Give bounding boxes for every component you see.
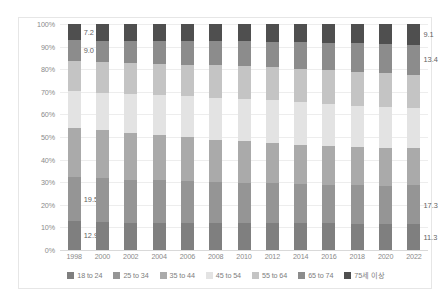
legend-item[interactable]: 35 to 44	[160, 271, 195, 280]
bar-segment[interactable]	[322, 24, 335, 43]
bar-segment[interactable]	[96, 222, 109, 250]
bar-segment[interactable]	[322, 146, 335, 184]
bar-slot[interactable]	[173, 24, 201, 250]
bar-segment[interactable]	[238, 66, 251, 98]
bar-segment[interactable]	[68, 128, 81, 177]
bar-segment[interactable]	[407, 45, 420, 75]
legend-item[interactable]: 25 to 34	[113, 271, 148, 280]
bar-segment[interactable]	[294, 145, 307, 184]
bar-segment[interactable]	[181, 24, 194, 41]
bar-segment[interactable]	[153, 64, 166, 95]
bar-segment[interactable]	[68, 177, 81, 221]
bar-slot[interactable]: 11.317.313.49.1	[400, 24, 428, 250]
bar-segment[interactable]	[181, 96, 194, 137]
bar-segment[interactable]	[124, 180, 137, 223]
bar-segment[interactable]	[266, 143, 279, 183]
bar-segment[interactable]	[407, 75, 420, 108]
bar-segment[interactable]	[351, 224, 364, 250]
bar-segment[interactable]	[209, 98, 222, 140]
bar-segment[interactable]	[96, 62, 109, 93]
bar-segment[interactable]	[294, 42, 307, 68]
bar-segment[interactable]	[124, 63, 137, 94]
bar-segment[interactable]	[209, 223, 222, 250]
bar-segment[interactable]	[209, 41, 222, 65]
bar-segment[interactable]	[209, 24, 222, 41]
bar-segment[interactable]	[238, 24, 251, 41]
bar-segment[interactable]	[181, 223, 194, 250]
bar-segment[interactable]	[379, 24, 392, 44]
bar-segment[interactable]	[351, 24, 364, 43]
bar-segment[interactable]	[407, 108, 420, 148]
bar-segment[interactable]	[379, 107, 392, 148]
bar-segment[interactable]	[181, 65, 194, 97]
bar-segment[interactable]	[153, 180, 166, 223]
bar-segment[interactable]	[238, 223, 251, 250]
bar-segment[interactable]	[294, 24, 307, 42]
bar-segment[interactable]	[181, 181, 194, 223]
bar-slot[interactable]	[230, 24, 258, 250]
stacked-bar[interactable]	[379, 24, 392, 250]
bar-segment[interactable]	[379, 44, 392, 73]
bar-segment[interactable]	[124, 94, 137, 133]
bar-segment[interactable]	[379, 148, 392, 185]
bar-slot[interactable]	[202, 24, 230, 250]
bar-segment[interactable]	[153, 95, 166, 135]
bar-segment[interactable]	[266, 67, 279, 100]
bar-segment[interactable]	[96, 130, 109, 178]
bar-segment[interactable]	[124, 24, 137, 41]
bar-segment[interactable]	[322, 185, 335, 224]
bar-segment[interactable]	[266, 100, 279, 143]
bar-segment[interactable]	[407, 24, 420, 45]
bar-segment[interactable]	[209, 65, 222, 97]
bar-segment[interactable]	[96, 93, 109, 131]
bar-segment[interactable]	[379, 224, 392, 250]
bar-segment[interactable]	[351, 185, 364, 224]
bar-segment[interactable]	[68, 91, 81, 128]
bar-segment[interactable]	[351, 106, 364, 148]
bar-segment[interactable]	[181, 41, 194, 65]
stacked-bar[interactable]	[181, 24, 194, 250]
bar-segment[interactable]	[266, 183, 279, 223]
stacked-bar[interactable]	[209, 24, 222, 250]
bar-segment[interactable]	[153, 223, 166, 250]
bar-segment[interactable]	[209, 182, 222, 223]
bar-segment[interactable]	[379, 186, 392, 225]
stacked-bar[interactable]: 11.317.313.49.1	[407, 24, 420, 250]
bar-segment[interactable]	[266, 42, 279, 68]
bar-segment[interactable]	[209, 140, 222, 182]
bar-segment[interactable]	[68, 61, 81, 92]
legend-item[interactable]: 55 to 64	[252, 271, 287, 280]
stacked-bar[interactable]	[266, 24, 279, 250]
bar-slot[interactable]: 12.919.59.07.2	[60, 24, 88, 250]
bar-segment[interactable]	[124, 133, 137, 180]
bar-segment[interactable]	[407, 185, 420, 224]
bar-slot[interactable]	[145, 24, 173, 250]
stacked-bar[interactable]	[153, 24, 166, 250]
bar-slot[interactable]	[117, 24, 145, 250]
bar-segment[interactable]	[96, 178, 109, 221]
bar-slot[interactable]	[371, 24, 399, 250]
bar-segment[interactable]	[266, 223, 279, 250]
bar-segment[interactable]	[322, 104, 335, 147]
bar-segment[interactable]	[294, 69, 307, 102]
legend-item[interactable]: 18 to 24	[67, 271, 102, 280]
bar-segment[interactable]	[379, 73, 392, 107]
bar-segment[interactable]	[68, 40, 81, 60]
bar-segment[interactable]	[294, 184, 307, 223]
bar-segment[interactable]	[294, 102, 307, 145]
stacked-bar[interactable]	[351, 24, 364, 250]
bar-segment[interactable]	[153, 24, 166, 41]
legend-item[interactable]: 45 to 54	[206, 271, 241, 280]
stacked-bar[interactable]	[322, 24, 335, 250]
stacked-bar[interactable]	[238, 24, 251, 250]
bar-segment[interactable]	[238, 183, 251, 223]
bar-segment[interactable]	[96, 41, 109, 62]
bar-segment[interactable]	[294, 223, 307, 250]
bar-segment[interactable]	[407, 224, 420, 250]
bar-segment[interactable]	[96, 24, 109, 40]
bar-segment[interactable]	[153, 135, 166, 180]
bar-segment[interactable]	[238, 99, 251, 142]
legend-item[interactable]: 75세 이상	[344, 270, 384, 280]
bar-segment[interactable]	[351, 72, 364, 106]
bar-slot[interactable]	[315, 24, 343, 250]
